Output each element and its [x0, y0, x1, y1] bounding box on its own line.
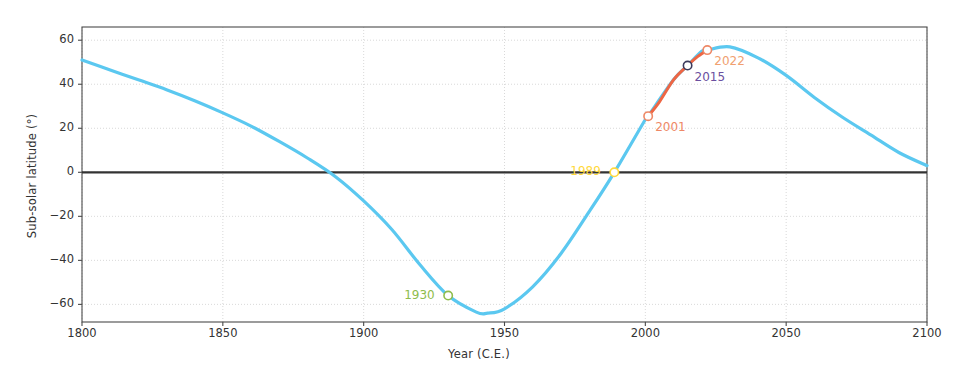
x-axis-title: Year (C.E.) — [0, 347, 958, 361]
x-tick-label: 1800 — [52, 326, 112, 340]
y-tick-label: 40 — [40, 76, 74, 90]
y-tick-label: −40 — [40, 252, 74, 266]
y-axis-title: Sub-solar latitude (°) — [25, 26, 39, 326]
y-tick-label: 0 — [40, 164, 74, 178]
annotation-label-1930: 1930 — [404, 288, 435, 302]
annotation-marker — [644, 112, 652, 120]
x-tick-label: 1900 — [334, 326, 394, 340]
x-tick-label: 2050 — [756, 326, 816, 340]
annotation-marker — [444, 291, 452, 299]
annotation-label-2022: 2022 — [714, 54, 745, 68]
annotation-marker — [610, 168, 618, 176]
annotation-label-2015: 2015 — [695, 70, 726, 84]
y-tick-label: 20 — [40, 120, 74, 134]
sub-solar-latitude-chart: Year (C.E.) Sub-solar latitude (°) 18001… — [0, 0, 958, 378]
y-tick-label: −20 — [40, 208, 74, 222]
x-tick-label: 2100 — [897, 326, 957, 340]
annotation-marker — [683, 61, 691, 69]
x-tick-label: 1950 — [475, 326, 535, 340]
y-tick-label: 60 — [40, 32, 74, 46]
x-tick-label: 1850 — [193, 326, 253, 340]
plot-canvas — [0, 0, 958, 378]
annotation-label-2001: 2001 — [655, 120, 686, 134]
annotation-marker — [703, 46, 711, 54]
x-tick-label: 2000 — [615, 326, 675, 340]
y-tick-label: −60 — [40, 296, 74, 310]
annotation-label-1989: 1989 — [570, 164, 601, 178]
